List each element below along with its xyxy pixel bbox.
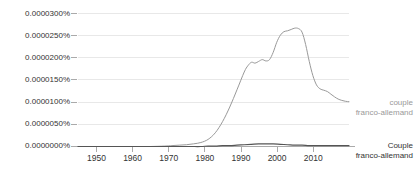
x-tick-label: 2010 [293, 154, 333, 163]
x-tick-label: 2000 [257, 154, 297, 163]
legend-item-couple-capitalized[interactable]: Couple franco-allemand [356, 141, 413, 161]
x-tick-label: 1970 [149, 154, 189, 163]
legend-label-line2: franco-allemand [356, 151, 413, 161]
x-axis-labels: 1950 1960 1970 1980 1990 2000 2010 [0, 0, 417, 172]
legend-label-line1: Couple [356, 141, 413, 151]
x-tick-label: 1990 [221, 154, 261, 163]
ngram-chart: 0.0000300% 0.0000250% 0.0000200% 0.00001… [0, 0, 417, 172]
x-tick-label: 1980 [185, 154, 225, 163]
legend-label-line2: franco-allemand [356, 108, 413, 118]
x-tick-label: 1960 [113, 154, 153, 163]
x-tick-label: 1950 [77, 154, 117, 163]
legend-label-line1: couple [356, 98, 413, 108]
legend-item-couple-lowercase[interactable]: couple franco-allemand [356, 98, 413, 118]
